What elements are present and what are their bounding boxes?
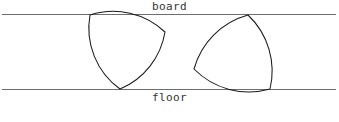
board-label: board [0, 1, 339, 13]
reuleaux-triangle-left [89, 11, 165, 89]
reuleaux-triangle-right [194, 15, 272, 92]
figure-caption [0, 115, 339, 122]
floor-label: floor [0, 92, 339, 104]
constant-width-rolling-figure: board floor [0, 0, 339, 122]
